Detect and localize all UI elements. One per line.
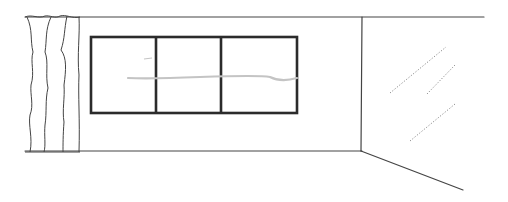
- corner-line: [361, 17, 362, 151]
- reflection-line-1: [390, 47, 446, 93]
- pencil-tick: [144, 58, 152, 59]
- pencil-horizon-line: [128, 76, 297, 80]
- room-sketch-canvas: [0, 0, 508, 202]
- reflection-line-2: [427, 65, 455, 94]
- curtain-fold-4: [78, 17, 79, 152]
- curtain-fold-3: [61, 16, 67, 152]
- window-frame: [91, 37, 297, 113]
- reflection-line-3: [410, 104, 455, 141]
- pencil-mark: [128, 58, 297, 80]
- curtain: [25, 16, 80, 152]
- curtain-fold-1: [27, 17, 33, 152]
- three-pane-window: [91, 37, 297, 113]
- glass-panel-reflection: [390, 47, 455, 141]
- curtain-fold-2: [44, 17, 51, 152]
- wall-outline: [25, 17, 484, 190]
- room-sketch: [0, 0, 508, 202]
- floor-diagonal-line: [361, 151, 463, 190]
